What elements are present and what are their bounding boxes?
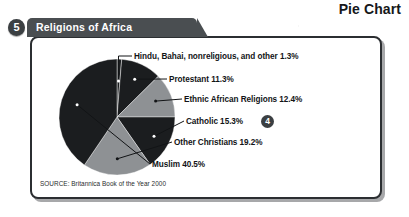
figure-tab-label: Religions of Africa	[36, 21, 132, 33]
slice-label-muslim: Muslim 40.5%	[152, 160, 205, 169]
figure-number-badge: 5	[8, 19, 25, 36]
page-title: Pie Chart	[339, 1, 401, 17]
slice-label-catholic: Catholic 15.3%	[186, 117, 243, 126]
slice-label-other-christians: Other Christians 19.2%	[174, 138, 263, 147]
slice-label-protestant: Protestant 11.3%	[169, 75, 234, 84]
figure-tab[interactable]: Religions of Africa	[27, 18, 197, 37]
slice-label-hindu-bahai-nonreligious-other: Hindu, Bahai, nonreligious, and other 1.…	[134, 52, 298, 61]
figure-container: Religions of Africa 5 Hindu, Bahai, nonr…	[6, 17, 401, 209]
callout-badge-4[interactable]: 4	[261, 115, 274, 128]
source-note: SOURCE: Britannica Book of the Year 2000	[40, 180, 166, 187]
slice-label-ethnic-african-religions: Ethnic African Religions 12.4%	[184, 95, 302, 104]
